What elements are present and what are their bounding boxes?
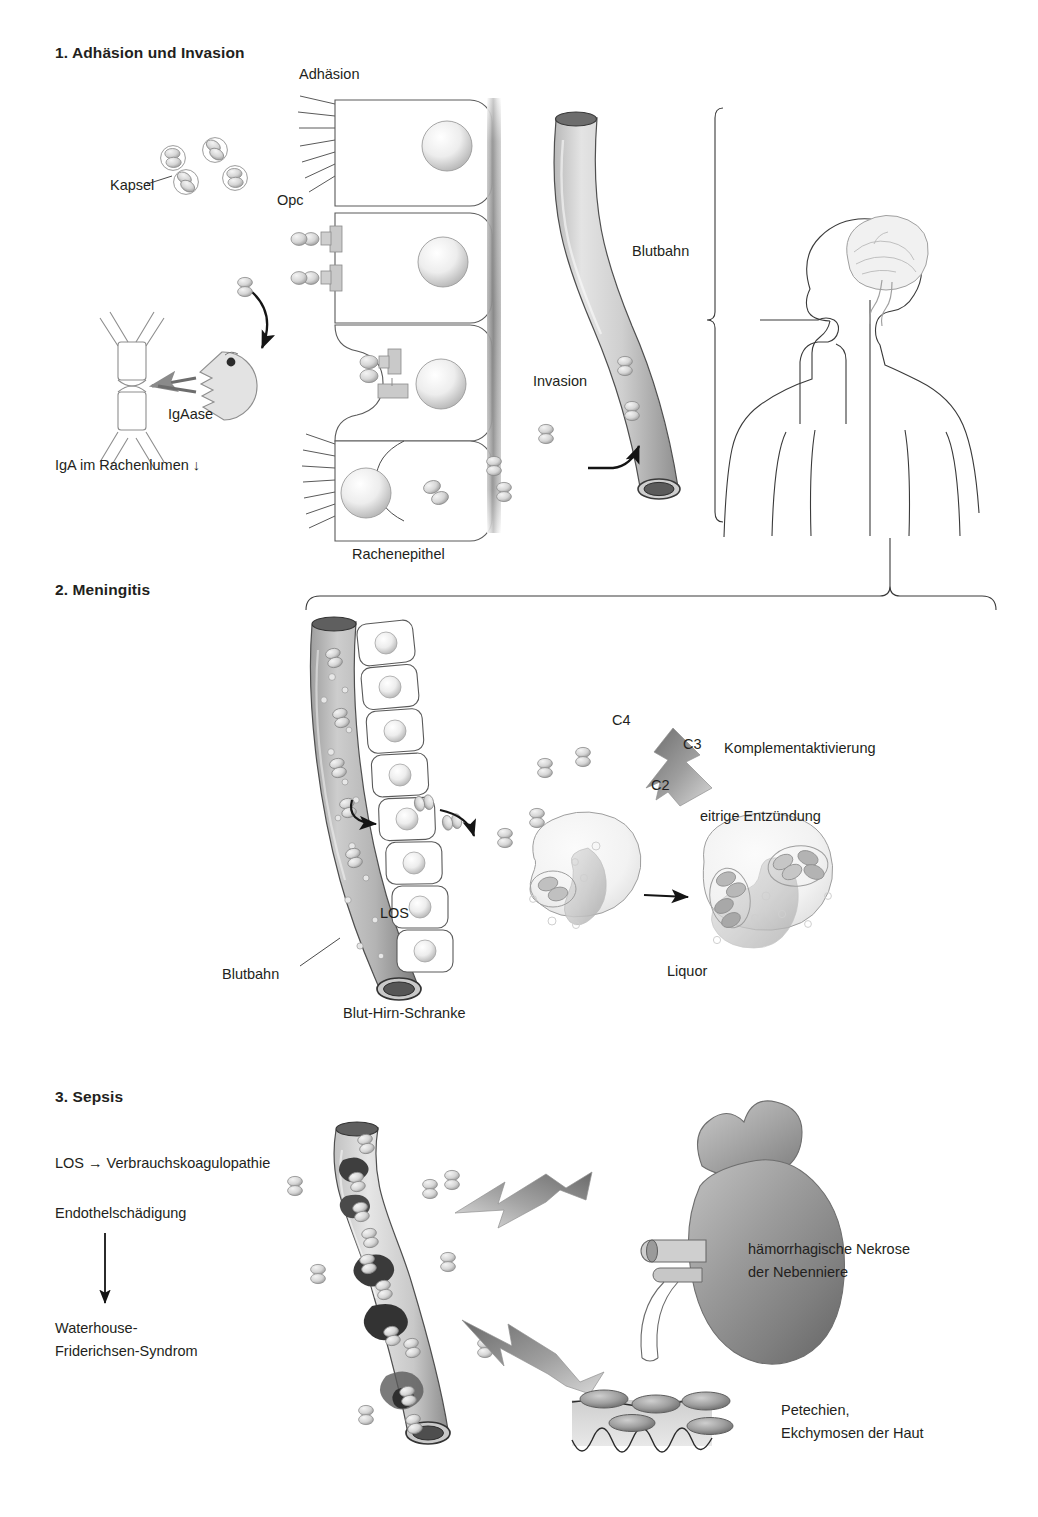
label-iga-rachenlumen: IgA im Rachenlumen ↓ xyxy=(55,455,200,476)
diplococcus-sepsis-2 xyxy=(311,1264,326,1283)
phagocyte-progression-arrow xyxy=(644,895,688,897)
label-liquor: Liquor xyxy=(667,961,707,982)
label-blutbahn-2: Blutbahn xyxy=(222,964,279,985)
section-heading-1: 1. Adhäsion und Invasion xyxy=(55,44,245,62)
label-los-koagulopathie: LOS → Verbrauchskoagulopathie xyxy=(55,1153,270,1174)
section1-graphics xyxy=(100,96,996,610)
pharyngeal-epithelium xyxy=(291,96,492,541)
opc-adhesin-1 xyxy=(291,226,342,252)
skin-with-petechiae xyxy=(572,1390,733,1452)
microvilli-bottom xyxy=(302,434,335,528)
opc-adhesin-2 xyxy=(291,265,342,291)
phagocyte-cell-2 xyxy=(703,813,832,948)
label-endothelschaedigung: Endothelschädigung xyxy=(55,1203,186,1224)
label-blut-hirn-schranke: Blut-Hirn-Schranke xyxy=(343,1003,466,1024)
iga-antibody xyxy=(100,312,164,468)
cleavage-arrows xyxy=(152,378,196,392)
section-heading-2: 2. Meningitis xyxy=(55,581,150,599)
label-nekrose-line2: der Nebenniere xyxy=(748,1262,848,1283)
diplococcus-sepsis-5 xyxy=(445,1170,460,1189)
diplococcus-sepsis-3 xyxy=(359,1405,374,1424)
section-heading-3: 3. Sepsis xyxy=(55,1088,123,1106)
label-waterhouse-line1: Waterhouse- xyxy=(55,1318,137,1339)
label-blutbahn-1: Blutbahn xyxy=(632,241,689,262)
label-petechien-line2: Ekchymosen der Haut xyxy=(781,1423,924,1444)
label-petechien-line1: Petechien, xyxy=(781,1400,850,1421)
label-adhaesion: Adhäsion xyxy=(299,64,359,85)
label-c2: C2 xyxy=(651,775,670,796)
diplococcus-free xyxy=(238,277,253,296)
label-los-2: LOS xyxy=(380,903,409,924)
label-invasion: Invasion xyxy=(533,371,587,392)
label-rachenepithel: Rachenepithel xyxy=(352,544,445,565)
bracket-section1 xyxy=(707,108,723,522)
diplococcus-liquor-1 xyxy=(498,828,513,847)
label-eitrige-entzuendung: eitrige Entzündung xyxy=(700,806,821,827)
diplococcus-liquor-4 xyxy=(576,747,591,766)
sepsis-vessel xyxy=(334,1122,450,1444)
bacteria-to-enzyme-arrow xyxy=(252,292,267,348)
label-c3: C3 xyxy=(683,734,702,755)
diplococcus-sepsis-4 xyxy=(423,1179,438,1198)
label-nekrose-line1: hämorrhagische Nekrose xyxy=(748,1239,910,1260)
capsulated-diplococci-cluster xyxy=(161,138,248,195)
diplococcus-sepsis-6 xyxy=(441,1252,456,1271)
label-waterhouse-line2: Friderichsen-Syndrom xyxy=(55,1341,198,1362)
diplococcus-sepsis-1 xyxy=(288,1176,303,1195)
figure-canvas: 1. Adhäsion und Invasion Adhäsion Kapsel… xyxy=(0,0,1038,1517)
label-kapsel: Kapsel xyxy=(110,175,154,196)
diplococcus-liquor-3 xyxy=(538,758,553,777)
figure-vector-layer xyxy=(0,0,1038,1517)
renal-vessels xyxy=(641,1240,706,1361)
diplococcus-crossing-2 xyxy=(539,424,554,443)
blood-vessel-section1 xyxy=(554,112,680,499)
invasion-arrow xyxy=(588,446,639,468)
label-komplementaktivierung: Komplementaktivierung xyxy=(724,738,876,759)
label-igaase: IgAase xyxy=(168,404,213,425)
blutbahn-leader-section2 xyxy=(300,938,340,966)
label-c4: C4 xyxy=(612,710,631,731)
label-opc: Opc xyxy=(277,190,304,211)
phagocyte-cell-1 xyxy=(530,812,641,929)
brain-icon xyxy=(847,215,928,326)
zigzag-arrow-adrenal xyxy=(455,1172,592,1228)
brace-to-section2 xyxy=(306,586,996,610)
microvilli-top xyxy=(298,96,335,192)
diplococcus-liquor-2 xyxy=(530,808,545,827)
diplococcus-exiting xyxy=(441,813,462,831)
kidney-with-adrenal xyxy=(641,1101,845,1364)
